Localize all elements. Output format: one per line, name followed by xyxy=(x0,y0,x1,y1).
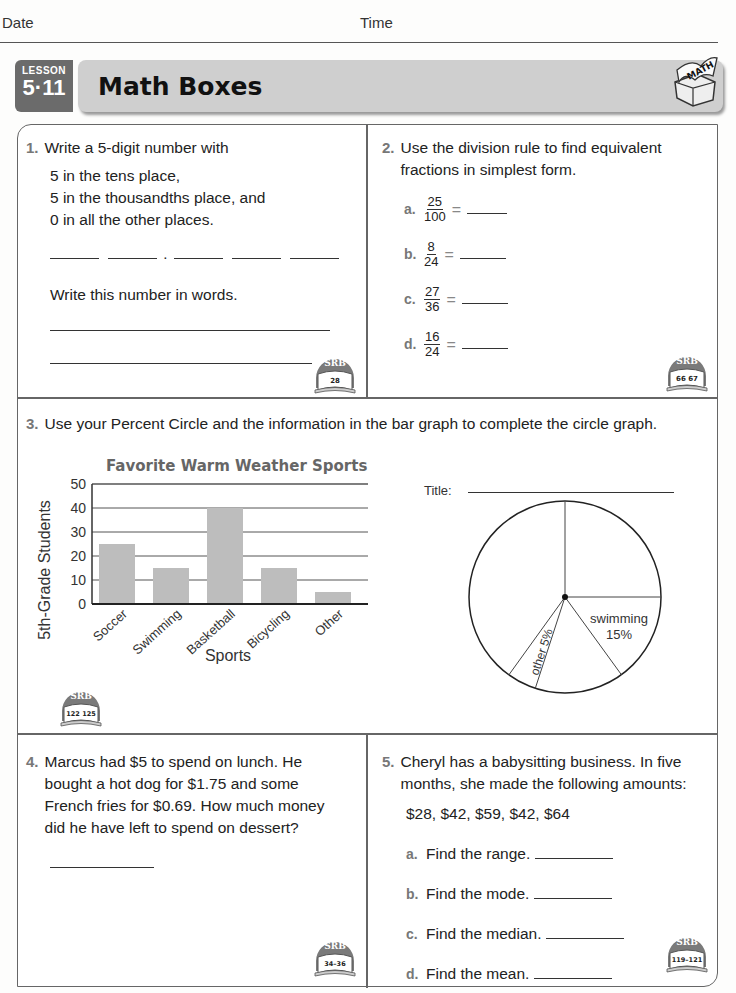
item-text: Find the range. xyxy=(426,845,530,862)
item-text: Find the mode. xyxy=(426,885,529,902)
lesson-number: 5·11 xyxy=(15,76,73,100)
q1-condition: 5 in the thousandths place, and xyxy=(50,187,356,209)
question-3-prompt: 3.Use your Percent Circle and the inform… xyxy=(26,413,716,435)
digit-blanks: . xyxy=(50,245,356,262)
answer-blank[interactable] xyxy=(546,938,624,939)
bar-bicycling xyxy=(261,568,297,604)
equals-sign: = xyxy=(446,336,455,353)
svg-text:30: 30 xyxy=(70,524,86,540)
svg-text:Swimming: Swimming xyxy=(129,606,184,657)
digit-blank[interactable] xyxy=(108,258,157,259)
item-letter: d. xyxy=(406,963,426,985)
srb-book-icon: SRB122 125 xyxy=(58,685,104,727)
digit-blank[interactable] xyxy=(290,258,339,259)
svg-text:119–121: 119–121 xyxy=(672,956,703,964)
numerator: 25 xyxy=(427,195,443,210)
svg-text:SRB: SRB xyxy=(676,937,698,947)
digit-blank[interactable] xyxy=(174,258,223,259)
item-letter: b. xyxy=(406,883,426,905)
question-number: 1. xyxy=(26,139,39,156)
bar-other xyxy=(315,592,351,604)
fraction-item: c.2736= xyxy=(404,285,702,330)
answer-blank[interactable] xyxy=(462,348,508,349)
q1-condition: 5 in the tens place, xyxy=(50,165,356,187)
numerator: 27 xyxy=(424,285,440,300)
question-number: 5. xyxy=(382,751,395,795)
srb-book-icon: SRB28 xyxy=(312,352,358,394)
item-letter: a. xyxy=(406,843,426,865)
item-text: Find the mean. xyxy=(426,965,529,982)
svg-text:66 67: 66 67 xyxy=(676,375,698,383)
lesson-header: LESSON 5·11 Math Boxes MATH xyxy=(15,60,723,112)
bar-chart: 5th-Grade Students 504030 20100 Soccer S… xyxy=(28,475,378,665)
math-boxes-grid: 1.Write a 5-digit number with 5 in the t… xyxy=(17,124,718,987)
date-label: Date xyxy=(2,14,34,31)
answer-blank[interactable] xyxy=(534,978,612,979)
bar-chart-title: Favorite Warm Weather Sports xyxy=(106,457,367,475)
title-bar: Math Boxes MATH xyxy=(78,60,723,112)
answer-blank[interactable] xyxy=(467,213,507,214)
answer-blank[interactable] xyxy=(460,258,506,259)
numerator: 8 xyxy=(427,240,436,255)
question-4: 4.Marcus had $5 to spend on lunch. He bo… xyxy=(26,751,346,868)
x-axis-label: Sports xyxy=(205,647,251,664)
divider xyxy=(366,125,368,397)
stat-item: d.Find the mean. xyxy=(406,963,702,993)
digit-blank[interactable] xyxy=(232,258,281,259)
svg-text:swimming: swimming xyxy=(590,611,648,626)
item-letter: c. xyxy=(404,291,424,307)
svg-text:122 125: 122 125 xyxy=(66,710,96,718)
equals-sign: = xyxy=(446,291,455,308)
equals-sign: = xyxy=(444,246,453,263)
words-answer-line[interactable] xyxy=(50,363,312,364)
y-axis-label: 5th-Grade Students xyxy=(36,500,53,640)
circle-title-label: Title: xyxy=(424,483,452,498)
divider xyxy=(366,733,368,988)
svg-text:40: 40 xyxy=(70,500,86,516)
question-number: 2. xyxy=(382,137,395,181)
answer-blank[interactable] xyxy=(534,898,612,899)
srb-book-icon: SRB66 67 xyxy=(664,350,710,392)
circle-title-input[interactable] xyxy=(468,492,674,493)
circle-graph: swimming 15% other 5% xyxy=(467,499,663,695)
question-number: 4. xyxy=(26,751,39,839)
denominator: 100 xyxy=(424,210,446,224)
svg-text:15%: 15% xyxy=(606,627,632,642)
svg-text:Soccer: Soccer xyxy=(90,606,131,645)
svg-text:20: 20 xyxy=(70,548,86,564)
q3-prompt: Use your Percent Circle and the informat… xyxy=(45,415,658,432)
item-letter: c. xyxy=(406,923,426,945)
digit-blank[interactable] xyxy=(50,258,99,259)
divider xyxy=(18,397,717,399)
math-box-icon: MATH xyxy=(667,52,721,108)
question-number: 3. xyxy=(26,415,39,432)
numerator: 16 xyxy=(424,330,440,345)
bar-basketball xyxy=(207,508,243,604)
page-title: Math Boxes xyxy=(98,72,262,101)
q5-amounts: $28, $42, $59, $42, $64 xyxy=(406,803,702,825)
item-letter: d. xyxy=(404,336,424,352)
bar-soccer xyxy=(99,544,135,604)
words-answer-line[interactable] xyxy=(50,330,330,331)
denominator: 36 xyxy=(425,300,439,314)
answer-blank[interactable] xyxy=(535,858,613,859)
fraction-item: d.1624= xyxy=(404,330,702,375)
stat-item: a.Find the range. xyxy=(406,843,702,883)
svg-text:SRB: SRB xyxy=(676,356,698,366)
q4-text: Marcus had $5 to spend on lunch. He boug… xyxy=(45,751,330,839)
bar-swimming xyxy=(153,568,189,604)
svg-text:Bicycling: Bicycling xyxy=(244,606,292,651)
svg-text:10: 10 xyxy=(70,572,86,588)
item-letter: a. xyxy=(404,201,424,217)
q1-words-prompt: Write this number in words. xyxy=(50,284,356,306)
svg-text:0: 0 xyxy=(78,596,86,612)
name-date-line xyxy=(0,10,718,43)
svg-text:SRB: SRB xyxy=(324,358,346,368)
item-text: Find the median. xyxy=(426,925,541,942)
denominator: 24 xyxy=(424,255,438,269)
answer-blank[interactable] xyxy=(462,303,508,304)
answer-line[interactable] xyxy=(50,867,154,868)
time-label: Time xyxy=(360,14,393,31)
q5-text: Cheryl has a babysitting business. In fi… xyxy=(401,751,701,795)
item-letter: b. xyxy=(404,246,424,262)
